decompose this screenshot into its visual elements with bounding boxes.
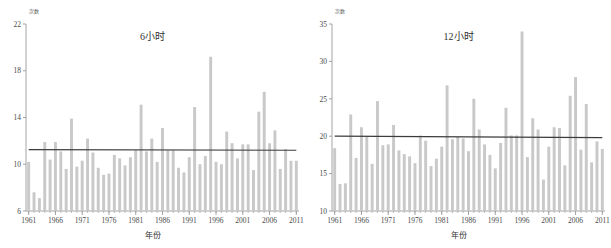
bar: [408, 156, 411, 211]
y-tick-label: 14: [14, 113, 22, 122]
bar: [574, 77, 577, 211]
bar: [188, 157, 191, 211]
x-tick-label: 1966: [48, 216, 63, 225]
bar: [339, 184, 342, 211]
trend-line: [335, 136, 603, 137]
chart-panel-12h: 次数 12小时 10152025303519611966197119761981…: [306, 0, 611, 248]
bar: [585, 104, 588, 211]
x-tick-label: 2006: [568, 216, 583, 225]
bar: [279, 169, 282, 211]
bar: [263, 92, 266, 211]
bar: [558, 128, 561, 211]
bar: [590, 162, 593, 211]
bar: [215, 162, 218, 211]
bar: [65, 169, 68, 211]
bar: [601, 149, 604, 211]
bar: [547, 147, 550, 211]
bar: [241, 144, 244, 211]
bar: [526, 157, 529, 211]
bar: [97, 168, 100, 211]
bar: [360, 127, 363, 211]
bar: [488, 155, 491, 211]
bar: [349, 115, 352, 211]
bar: [81, 161, 84, 211]
y-tick-label: 18: [14, 66, 22, 75]
bar: [414, 163, 417, 211]
x-tick-label: 1976: [101, 216, 116, 225]
x-tick-label: 2001: [541, 216, 556, 225]
bar: [43, 142, 46, 211]
x-tick-label: 1966: [354, 216, 369, 225]
bar: [33, 192, 36, 211]
bar: [505, 108, 508, 211]
x-tick-label: 2011: [289, 216, 304, 225]
bar: [563, 165, 566, 211]
bar: [397, 150, 400, 211]
bar: [344, 183, 347, 211]
bar: [70, 119, 73, 211]
bar: [290, 161, 293, 211]
y-tick-label: 30: [320, 57, 328, 66]
bar: [129, 157, 132, 211]
bar: [59, 151, 62, 211]
y-tick-label: 6: [17, 207, 21, 216]
x-tick-label: 1981: [128, 216, 143, 225]
bar: [440, 147, 443, 211]
x-axis-title-12h: 年份: [306, 229, 611, 240]
bar: [177, 168, 180, 211]
x-tick-label: 1991: [488, 216, 503, 225]
bar: [268, 143, 271, 211]
bar: [596, 141, 599, 211]
bar: [91, 153, 94, 211]
bar: [579, 150, 582, 211]
bar: [209, 57, 212, 211]
y-tick-label: 35: [320, 20, 328, 29]
bar: [193, 107, 196, 211]
bar: [199, 164, 202, 211]
bar: [355, 158, 358, 211]
bar: [247, 144, 250, 211]
bar: [161, 128, 164, 211]
bar: [236, 158, 239, 211]
bar: [499, 143, 502, 211]
y-tick-label: 25: [320, 95, 328, 104]
bar: [295, 161, 298, 211]
x-tick-label: 2001: [235, 216, 250, 225]
x-tick-label: 1961: [21, 216, 36, 225]
bar: [257, 112, 260, 211]
bar: [365, 137, 368, 211]
bar: [569, 96, 572, 211]
bar: [102, 175, 105, 211]
bar: [371, 164, 374, 211]
y-tick-label: 15: [320, 169, 328, 178]
bar: [387, 144, 390, 211]
x-tick-label: 2011: [595, 216, 610, 225]
bar: [156, 162, 159, 211]
bar: [134, 150, 137, 211]
bar: [140, 105, 143, 211]
bar: [510, 135, 513, 211]
y-tick-label: 10: [320, 207, 328, 216]
bar-chart-6h: 6101418221961196619711976198119861991199…: [0, 0, 305, 248]
bar: [225, 132, 228, 211]
bar: [435, 159, 438, 211]
bar: [456, 137, 459, 211]
x-tick-label: 1961: [327, 216, 342, 225]
bar: [27, 162, 30, 211]
x-tick-label: 1996: [209, 216, 224, 225]
bar: [494, 168, 497, 211]
bar: [478, 129, 481, 211]
bar: [376, 101, 379, 211]
y-tick-label: 20: [320, 132, 328, 141]
bar: [446, 85, 449, 211]
chart-panel-6h: 次数 6小时 610141822196119661971197619811986…: [0, 0, 305, 248]
x-tick-label: 1986: [461, 216, 476, 225]
x-tick-label: 1996: [515, 216, 530, 225]
bar: [419, 135, 422, 211]
bar: [49, 160, 52, 211]
bar: [483, 144, 486, 211]
bar: [252, 170, 255, 211]
bar: [403, 154, 406, 211]
bar: [204, 156, 207, 211]
figure-container: 次数 6小时 610141822196119661971197619811986…: [0, 0, 611, 248]
